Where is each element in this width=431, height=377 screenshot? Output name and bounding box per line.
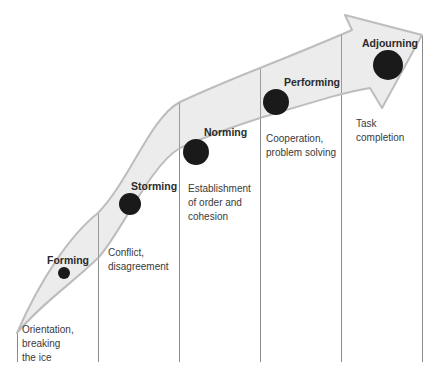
stage-desc-forming: Orientation, breaking the ice [22,323,74,365]
stage-dot-norming [183,139,209,165]
stage-label-performing: Performing [284,76,340,88]
stage-desc-storming: Conflict, disagreement [108,246,169,274]
stage-label-forming: Forming [47,254,89,266]
stage-desc-performing: Cooperation, problem solving [266,132,336,160]
stage-desc-adjourning: Task completion [356,117,404,145]
stage-desc-norming: Establishment of order and cohesion [188,182,251,224]
stage-dot-adjourning [373,50,403,80]
stage-dot-forming [58,267,70,279]
stage-dot-storming [119,193,141,215]
stage-label-adjourning: Adjourning [362,37,418,49]
curved-arrow-shape [17,15,422,333]
stage-label-storming: Storming [131,180,177,192]
stage-label-norming: Norming [204,126,247,138]
stage-dot-performing [263,89,289,115]
